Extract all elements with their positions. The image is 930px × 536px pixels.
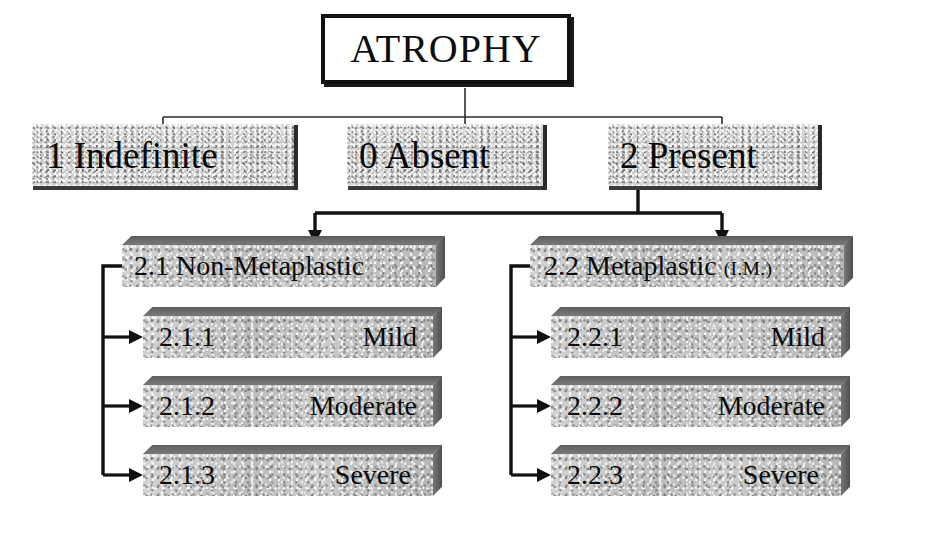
slab-right-bevel: [433, 445, 442, 496]
arrowhead-left-severe: [129, 468, 143, 482]
node-non-metaplastic[interactable]: 2.1 Non-Metaplastic: [122, 245, 436, 287]
node-2-2-1-grade: Mild: [771, 323, 825, 351]
slab-face: 2.2 Metaplastic (I.M.): [530, 245, 844, 287]
node-2-2-2-code: 2.2.2: [567, 392, 623, 420]
node-2-2-3-grade: Severe: [743, 461, 819, 489]
slab-right-bevel: [841, 376, 850, 427]
slab-right-bevel: [433, 307, 442, 358]
node-absent-label: 0 Absent: [359, 137, 490, 174]
node-2-2-3[interactable]: 2.2.3 Severe: [551, 454, 841, 496]
slab-right-bevel: [436, 236, 445, 287]
slab-face: 2.2.2 Moderate: [551, 385, 841, 427]
node-2-1-3-code: 2.1.3: [159, 461, 215, 489]
node-metaplastic-label: 2.2 Metaplastic (I.M.): [544, 252, 772, 280]
slab-top-bevel: [551, 307, 850, 316]
node-2-1-2[interactable]: 2.1.2 Moderate: [143, 385, 433, 427]
slab-face: 2.2.1 Mild: [551, 316, 841, 358]
node-present-label: 2 Present: [620, 137, 757, 174]
slab-face: 2.1.3 Severe: [143, 454, 433, 496]
slab-top-bevel: [551, 376, 850, 385]
slab-top-bevel: [143, 307, 442, 316]
slab-top-bevel: [530, 236, 853, 245]
arrowhead-right-severe: [537, 468, 551, 482]
slab-top-bevel: [143, 376, 442, 385]
node-2-1-1-code: 2.1.1: [159, 323, 215, 351]
node-2-2-2-grade: Moderate: [718, 392, 825, 420]
node-metaplastic-label-suffix: (I.M.): [724, 258, 773, 279]
arrowhead-right-moderate: [537, 399, 551, 413]
node-2-1-3-grade: Severe: [335, 461, 411, 489]
node-2-1-3[interactable]: 2.1.3 Severe: [143, 454, 433, 496]
node-2-1-1[interactable]: 2.1.1 Mild: [143, 316, 433, 358]
arrowhead-right-mild: [537, 330, 551, 344]
slab-right-bevel: [841, 307, 850, 358]
node-2-1-2-code: 2.1.2: [159, 392, 215, 420]
node-2-1-2-grade: Moderate: [310, 392, 417, 420]
node-2-2-3-code: 2.2.3: [567, 461, 623, 489]
slab-right-bevel: [433, 376, 442, 427]
slab-right-bevel: [841, 445, 850, 496]
bracket-right-spine: [511, 266, 530, 475]
slab-face: 2.1.2 Moderate: [143, 385, 433, 427]
slab-face: 2.2.3 Severe: [551, 454, 841, 496]
slab-top-bevel: [143, 445, 442, 454]
node-atrophy-root[interactable]: ATROPHY: [321, 14, 571, 84]
slab-face: 2.1.1 Mild: [143, 316, 433, 358]
slab-top-bevel: [551, 445, 850, 454]
node-absent[interactable]: 0 Absent: [347, 124, 543, 186]
node-non-metaplastic-label: 2.1 Non-Metaplastic: [134, 252, 364, 280]
node-2-2-1-code: 2.2.1: [567, 323, 623, 351]
node-indefinite-label: 1 Indefinite: [46, 137, 218, 174]
slab-right-bevel: [844, 236, 853, 287]
arrowhead-left-moderate: [129, 399, 143, 413]
bracket-left-spine: [103, 266, 122, 475]
node-present[interactable]: 2 Present: [608, 124, 818, 186]
node-2-2-1[interactable]: 2.2.1 Mild: [551, 316, 841, 358]
arrowhead-left-mild: [129, 330, 143, 344]
node-indefinite[interactable]: 1 Indefinite: [32, 124, 294, 186]
node-2-2-2[interactable]: 2.2.2 Moderate: [551, 385, 841, 427]
node-atrophy-label: ATROPHY: [350, 29, 541, 69]
slab-top-bevel: [122, 236, 445, 245]
node-metaplastic-label-main: 2.2 Metaplastic: [544, 250, 724, 281]
node-metaplastic[interactable]: 2.2 Metaplastic (I.M.): [530, 245, 844, 287]
diagram-canvas: ATROPHY 1 Indefinite 0 Absent 2 Present …: [0, 0, 930, 536]
slab-face: 2.1 Non-Metaplastic: [122, 245, 436, 287]
node-2-1-1-grade: Mild: [363, 323, 417, 351]
